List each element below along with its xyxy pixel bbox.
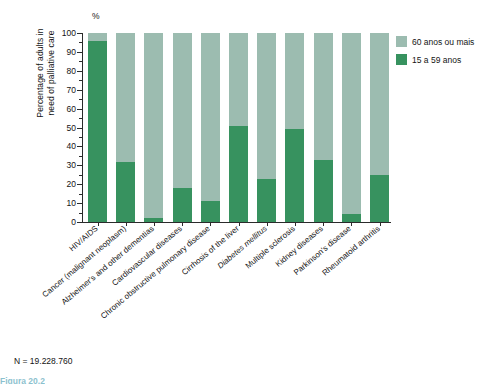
bar-segment-15-a-59-anos [285,129,304,222]
y-tick-label-20: 20 [52,179,76,189]
y-tick-minor-25 [79,175,82,176]
bar-segment-60-anos-ou-mais [370,33,389,175]
bar-kidney-diseases [314,33,333,222]
bar-segment-15-a-59-anos [370,175,389,222]
legend: 60 anos ou mais 15 a 59 anos [396,36,501,72]
bar-series-group [85,33,390,222]
y-tick-minor-55 [79,118,82,119]
bar-segment-15-a-59-anos [116,162,135,222]
bar-segment-15-a-59-anos [173,188,192,222]
bar-cancer-malignant-neoplasm [116,33,135,222]
bar-segment-15-a-59-anos [257,179,276,222]
y-tick-40 [77,146,82,147]
bar-segment-60-anos-ou-mais [88,33,107,41]
y-tick-label-100: 100 [52,28,76,38]
figure-caption-cropped: Figura 20.2 [0,376,45,384]
bar-segment-60-anos-ou-mais [229,33,248,126]
bar-segment-60-anos-ou-mais [257,33,276,179]
bar-segment-60-anos-ou-mais [285,33,304,129]
y-axis-line [82,33,83,222]
legend-label-15-59: 15 a 59 anos [412,55,461,65]
bar-segment-60-anos-ou-mais [144,33,163,218]
y-axis-unit-percent: % [92,11,100,21]
y-tick-60 [77,109,82,110]
y-tick-20 [77,184,82,185]
x-axis-label-7: Multiple sclerosis [244,224,297,271]
bar-segment-15-a-59-anos [88,41,107,222]
y-tick-90 [77,52,82,53]
y-tick-minor-95 [79,42,82,43]
y-tick-minor-5 [79,213,82,214]
y-tick-label-50: 50 [52,123,76,133]
y-tick-label-10: 10 [52,198,76,208]
legend-label-60-anos: 60 anos ou mais [412,37,474,47]
bar-segment-60-anos-ou-mais [342,33,361,214]
y-tick-70 [77,90,82,91]
bar-cirrhosis-of-the-liver [229,33,248,222]
y-tick-label-70: 70 [52,85,76,95]
legend-swatch-icon-60-anos [396,36,407,47]
y-tick-minor-45 [79,137,82,138]
y-tick-label-30: 30 [52,160,76,170]
y-tick-minor-75 [79,80,82,81]
bar-segment-60-anos-ou-mais [314,33,333,160]
y-tick-80 [77,71,82,72]
y-tick-label-80: 80 [52,66,76,76]
stacked-bar-chart: Percentage of adults in need of palliati… [0,0,503,385]
bar-multiple-sclerosis [285,33,304,222]
bar-rheumatoid-arthritis [370,33,389,222]
y-tick-minor-35 [79,156,82,157]
plot-area: 0102030405060708090100 [85,33,390,222]
legend-swatch-icon-15-59 [396,54,407,65]
y-tick-0 [77,222,82,223]
y-tick-label-90: 90 [52,47,76,57]
legend-item-15-a-59-anos: 15 a 59 anos [396,54,501,65]
x-axis-label-6: Diabetes mellitus [215,224,268,271]
x-axis-category-labels: HIV/AIDSCancer (malignant neoplasm)Alzhe… [85,222,503,332]
sample-size-note: N = 19.228.760 [14,356,72,366]
y-tick-label-60: 60 [52,104,76,114]
y-tick-minor-15 [79,194,82,195]
bar-segment-15-a-59-anos [229,126,248,222]
y-tick-minor-65 [79,99,82,100]
y-tick-label-40: 40 [52,141,76,151]
bar-segment-60-anos-ou-mais [201,33,220,201]
legend-item-60-anos-ou-mais: 60 anos ou mais [396,36,501,47]
bar-cardiovascular-diseases [173,33,192,222]
bar-diabetes-mellitus [257,33,276,222]
y-axis-title-line-1: Percentage of adults in [35,28,45,117]
bar-segment-60-anos-ou-mais [116,33,135,162]
bar-segment-15-a-59-anos [201,201,220,222]
bar-segment-15-a-59-anos [342,214,361,222]
y-tick-label-0: 0 [52,217,76,227]
y-tick-minor-85 [79,61,82,62]
bar-chronic-obstructive-pulmonary-disease [201,33,220,222]
y-tick-10 [77,203,82,204]
bar-parkinson-s-disease [342,33,361,222]
bar-hiv-aids [88,33,107,222]
bar-alzheimer-s-and-other-dementias [144,33,163,222]
bar-segment-15-a-59-anos [314,160,333,222]
y-tick-100 [77,33,82,34]
y-tick-30 [77,165,82,166]
bar-segment-60-anos-ou-mais [173,33,192,188]
y-tick-50 [77,128,82,129]
